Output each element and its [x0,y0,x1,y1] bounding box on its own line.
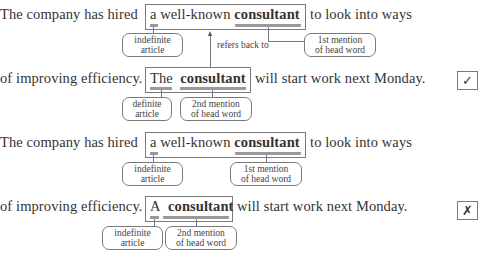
connector [268,41,304,42]
callout-text: article [123,45,182,56]
sentence-text: of improving efficiency. [0,198,143,215]
sentence-text: The company has hired [0,6,138,23]
sentence-line: of improving efficiency. [0,198,143,215]
callout-text: of head word [231,174,301,185]
connector [154,219,155,226]
connector [161,90,162,97]
article-underline [150,152,158,155]
noun-phrase-plain: a well-known [150,134,231,151]
callout-2nd-mention: 2nd mention of head word [180,97,252,121]
sentence-line: of improving efficiency. [0,70,143,87]
callout-2nd-mention: 2nd mention of head word [165,226,237,250]
sentence-text-after: to look into ways [310,134,412,151]
sentence-line: The company has hired [0,134,138,151]
connector [268,27,269,41]
callout-definite-article: definite article [122,97,172,121]
callout-text: of head word [181,109,251,120]
head-word: consultant [234,134,299,150]
callout-1st-mention: 1st mention of head word [304,33,376,57]
sentence-text-after: will start work next Monday. [237,198,408,215]
callout-indefinite-article: indefinite article [122,162,183,186]
head-word: consultant [180,70,245,86]
head-word: consultant [168,198,233,214]
callout-text: 1st mention [305,35,375,46]
callout-indefinite-article: indefinite article [102,226,163,250]
noun-phrase: The consultant [150,70,246,87]
article-underline [150,24,158,27]
callout-text: definite [123,99,171,110]
sentence-text: will start work next Monday. [255,70,426,87]
callout-text: article [103,238,162,249]
noun-phrase: a well-known consultant [150,134,300,151]
noun-phrase-plain: a well-known [150,6,231,23]
callout-text: indefinite [123,35,182,46]
head-word-underline [235,152,301,155]
noun-phrase: a well-known consultant [150,6,300,23]
sentence-text: to look into ways [310,6,412,23]
sentence-text: will start work next Monday. [237,198,408,215]
arrowhead-icon [208,31,212,36]
noun-phrase-plain: A [150,198,161,215]
callout-text: indefinite [123,164,182,175]
head-word: consultant [234,6,299,22]
noun-phrase: A consultant [150,198,234,215]
connector [212,90,213,97]
callout-indefinite-article: indefinite article [122,33,183,57]
check-icon: ✓ [457,71,478,90]
head-word-underline [180,87,246,90]
sentence-line: The company has hired [0,6,138,23]
sentence-text: of improving efficiency. [0,70,143,87]
callout-text: of head word [305,45,375,56]
connector [196,219,197,226]
connector [153,155,154,162]
sentence-text-after: will start work next Monday. [255,70,426,87]
callout-text: 2nd mention [181,99,251,110]
callout-text: 2nd mention [166,228,236,239]
refers-back-arrow [210,35,211,67]
callout-text: of head word [166,238,236,249]
sentence-text: The company has hired [0,134,138,151]
arrow-label: refers back to [217,40,269,50]
noun-phrase-plain: The [150,70,173,87]
connector [266,155,267,162]
callout-text: indefinite [103,228,162,239]
callout-text: article [123,174,182,185]
sentence-text-after: to look into ways [310,6,412,23]
sentence-text: to look into ways [310,134,412,151]
callout-1st-mention: 1st mention of head word [230,162,302,186]
callout-text: article [123,109,171,120]
callout-text: 1st mention [231,164,301,175]
cross-icon: ✗ [457,201,478,220]
